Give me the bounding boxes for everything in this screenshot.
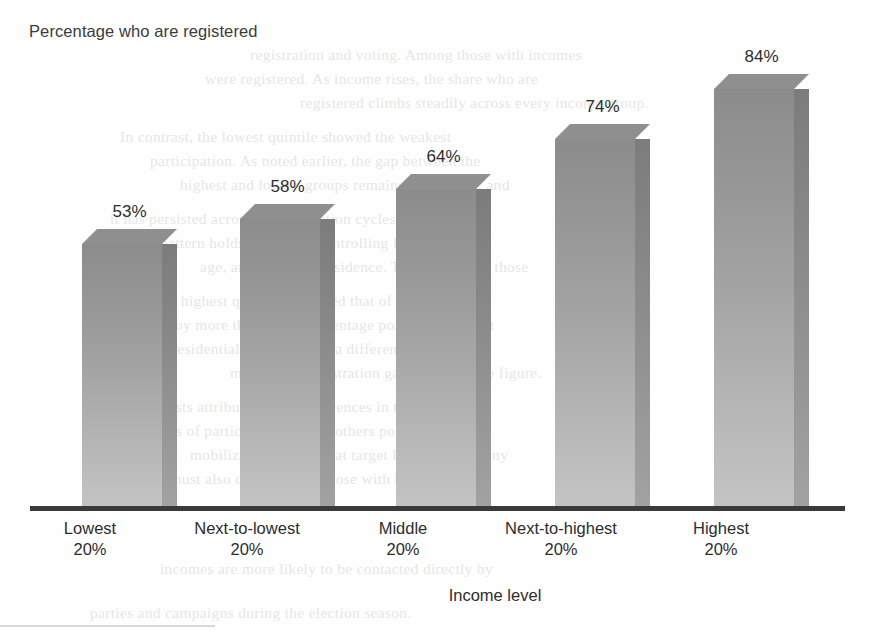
bar-front-face — [714, 89, 794, 508]
x-axis-title: Income level — [0, 586, 870, 605]
plot-area: 53%Lowest20%58%Next-to-lowest20%64%Middl… — [0, 0, 870, 631]
x-axis-line — [30, 506, 845, 511]
bar-1 — [240, 204, 320, 508]
bar-value-label: 84% — [714, 47, 809, 67]
bar-2 — [396, 174, 476, 508]
bar-top-face — [240, 204, 335, 219]
bar-side-face — [635, 139, 650, 508]
bar-top-face — [714, 74, 809, 89]
category-label-line1: Highest — [693, 519, 749, 537]
bar-side-face — [162, 244, 177, 508]
chart-title: Percentage who are registered — [29, 22, 258, 41]
bar-front-face — [240, 219, 320, 508]
bar-side-face — [794, 89, 809, 508]
bar-value-label: 58% — [240, 177, 335, 197]
bar-value-label: 64% — [396, 147, 491, 167]
bar-3 — [555, 124, 635, 508]
bar-front-face — [555, 139, 635, 508]
bar-top-face — [396, 174, 491, 189]
bar-top-face — [555, 124, 650, 139]
bar-side-face — [320, 219, 335, 508]
x-axis-title-text: Income level — [449, 586, 542, 604]
bar-4 — [714, 74, 794, 508]
bar-side-face — [476, 189, 491, 508]
bar-value-label: 74% — [555, 97, 650, 117]
category-label-line2: 20% — [626, 539, 816, 560]
bar-value-label: 53% — [82, 202, 177, 222]
category-label-line1: Next-to-highest — [505, 519, 617, 537]
bar-top-face — [82, 229, 177, 244]
bar-front-face — [396, 189, 476, 508]
category-label-line1: Next-to-lowest — [194, 519, 299, 537]
bar-0 — [82, 229, 162, 508]
category-label-4: Highest20% — [626, 518, 816, 560]
category-label-line1: Middle — [379, 519, 428, 537]
category-label-line1: Lowest — [64, 519, 116, 537]
chart-figure: registration and voting. Among those wit… — [0, 0, 870, 631]
bar-front-face — [82, 244, 162, 508]
